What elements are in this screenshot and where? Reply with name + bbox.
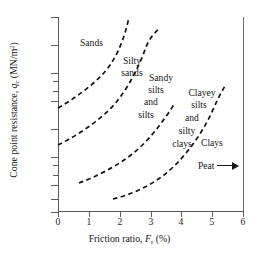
region-label-sandy-silts-line3: and (133, 97, 169, 108)
region-label-silty-sands-line1: Silty (114, 56, 150, 67)
x-axis-title-prefix: Friction ratio, (89, 233, 145, 244)
region-label-clays: Clays (201, 138, 223, 149)
region-label-sandy-silts-line4: silts (129, 110, 163, 121)
region-label-peat: Peat (198, 160, 215, 171)
x-axis-title-suffix: (%) (153, 233, 170, 244)
peat-annotation: Peat (198, 160, 239, 171)
region-label-sandy-silts-line2: silts (138, 85, 174, 96)
y-axis-title: Cone point resistance, qc (MN/m2) (8, 10, 20, 210)
y-axis-title-units-exp: 2 (8, 45, 15, 48)
region-label-sands: Sands (80, 38, 103, 49)
y-axis-title-units-open: (MN/m (8, 49, 19, 81)
region-label-clayey-silts-line1: Clayey (179, 88, 225, 99)
y-axis-title-symbol: q (8, 84, 19, 89)
boundary-curves (0, 0, 259, 265)
arrow-right-icon (217, 161, 239, 170)
y-axis-title-units-close: ) (8, 42, 19, 45)
region-label-clayey-silts-line5: clays (164, 139, 200, 150)
y-axis-title-subscript: c (13, 81, 20, 84)
region-label-clayey-silts-line4: silty (170, 126, 204, 137)
y-axis-title-prefix: Cone point resistance, (8, 88, 19, 177)
x-axis-title: Friction ratio, Fr (%) (0, 233, 259, 245)
region-label-clayey-silts-line3: and (174, 113, 210, 124)
cpt-soil-classification-chart: 40 20 10 8 6 4 2 1 0.8 0.6 0.4 0.2 0.1 0… (0, 0, 259, 265)
region-label-sandy-silts-line1: Sandy (141, 73, 181, 84)
region-label-clayey-silts-line2: silts (180, 100, 218, 111)
